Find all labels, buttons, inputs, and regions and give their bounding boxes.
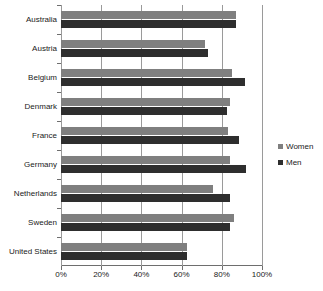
- bar-women-netherlands: [61, 185, 213, 193]
- x-tick-label-60: 60%: [164, 270, 200, 280]
- bar-group: [61, 63, 262, 92]
- bar-group: [61, 237, 262, 266]
- category-tick: [57, 179, 61, 180]
- bar-group: [61, 121, 262, 150]
- bar-men-netherlands: [61, 194, 230, 202]
- bar-women-australia: [61, 11, 236, 19]
- bar-chart: AustraliaAustriaBelgiumDenmarkFranceGerm…: [0, 0, 323, 291]
- legend-label: Women: [286, 142, 313, 151]
- legend-swatch-icon: [278, 160, 283, 165]
- category-label-france: France: [0, 131, 57, 140]
- chart-legend: WomenMen: [278, 140, 323, 172]
- bar-women-sweden: [61, 214, 234, 222]
- bar-group: [61, 179, 262, 208]
- x-tick-label-0: 0%: [43, 270, 79, 280]
- bar-men-sweden: [61, 223, 230, 231]
- category-tick: [57, 5, 61, 6]
- category-tick: [57, 34, 61, 35]
- category-tick: [57, 237, 61, 238]
- bar-group: [61, 208, 262, 237]
- bar-group: [61, 92, 262, 121]
- category-label-germany: Germany: [0, 160, 57, 169]
- bar-men-austria: [61, 49, 208, 57]
- category-label-austria: Austria: [0, 44, 57, 53]
- bar-women-germany: [61, 156, 230, 164]
- category-axis-labels: AustraliaAustriaBelgiumDenmarkFranceGerm…: [0, 5, 57, 266]
- x-tick-label-100: 100%: [244, 270, 280, 280]
- bar-women-denmark: [61, 98, 230, 106]
- category-label-sweden: Sweden: [0, 218, 57, 227]
- bar-men-denmark: [61, 107, 227, 115]
- category-tick: [57, 63, 61, 64]
- legend-item-women[interactable]: Women: [278, 140, 323, 153]
- bar-men-united-states: [61, 252, 187, 260]
- x-tick-label-40: 40%: [123, 270, 159, 280]
- x-axis-tick-labels: 0%20%40%60%80%100%: [0, 270, 323, 284]
- bar-women-austria: [61, 40, 205, 48]
- bar-women-united-states: [61, 243, 187, 251]
- gridline-100: [262, 5, 263, 266]
- bar-men-belgium: [61, 78, 245, 86]
- category-tick: [57, 92, 61, 93]
- x-tick-label-80: 80%: [204, 270, 240, 280]
- x-tick-label-20: 20%: [83, 270, 119, 280]
- plot-area: [61, 5, 262, 266]
- category-label-netherlands: Netherlands: [0, 189, 57, 198]
- category-label-denmark: Denmark: [0, 102, 57, 111]
- category-label-australia: Australia: [0, 15, 57, 24]
- bar-group: [61, 5, 262, 34]
- bar-group: [61, 34, 262, 63]
- category-tick: [57, 121, 61, 122]
- legend-label: Men: [286, 158, 302, 167]
- bar-group: [61, 150, 262, 179]
- bar-men-france: [61, 136, 239, 144]
- category-tick: [57, 208, 61, 209]
- category-label-united-states: United States: [0, 247, 57, 256]
- category-label-belgium: Belgium: [0, 73, 57, 82]
- bar-women-france: [61, 127, 228, 135]
- bar-women-belgium: [61, 69, 232, 77]
- bar-men-germany: [61, 165, 246, 173]
- legend-swatch-icon: [278, 144, 283, 149]
- category-tick: [57, 150, 61, 151]
- bar-men-australia: [61, 20, 236, 28]
- legend-item-men[interactable]: Men: [278, 156, 323, 169]
